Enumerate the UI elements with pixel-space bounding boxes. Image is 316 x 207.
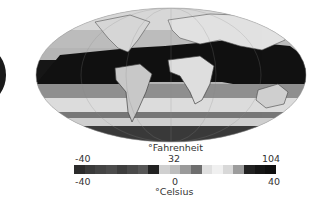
colorbar-segment [223, 165, 234, 174]
fahrenheit-mid: 32 [168, 153, 180, 164]
colorbar-segment [138, 165, 149, 174]
world-temperature-map [0, 0, 316, 160]
colorbar-segment [117, 165, 128, 174]
celsius-label: °Celsius [155, 186, 193, 197]
celsius-min: -40 [75, 176, 91, 187]
colorbar-segment [170, 165, 181, 174]
colorbar-segment [233, 165, 244, 174]
colorbar-segment [255, 165, 266, 174]
colorbar-segment [95, 165, 106, 174]
fahrenheit-max: 104 [262, 153, 280, 164]
colorbar-segment [265, 165, 276, 174]
colorbar-segment [212, 165, 223, 174]
fahrenheit-label: °Fahrenheit [148, 142, 203, 153]
colorbar-segment [148, 165, 159, 174]
colorbar-segment [244, 165, 255, 174]
fahrenheit-min: -40 [75, 153, 91, 164]
colorbar-segment [127, 165, 138, 174]
colorbar-segment [180, 165, 191, 174]
celsius-max: 40 [268, 176, 280, 187]
colorbar-segment [191, 165, 202, 174]
colorbar-segment [202, 165, 213, 174]
colorbar-segment [74, 165, 85, 174]
colorbar-segment [106, 165, 117, 174]
temperature-colorbar [74, 165, 276, 174]
colorbar-segment [159, 165, 170, 174]
colorbar-segment [85, 165, 96, 174]
